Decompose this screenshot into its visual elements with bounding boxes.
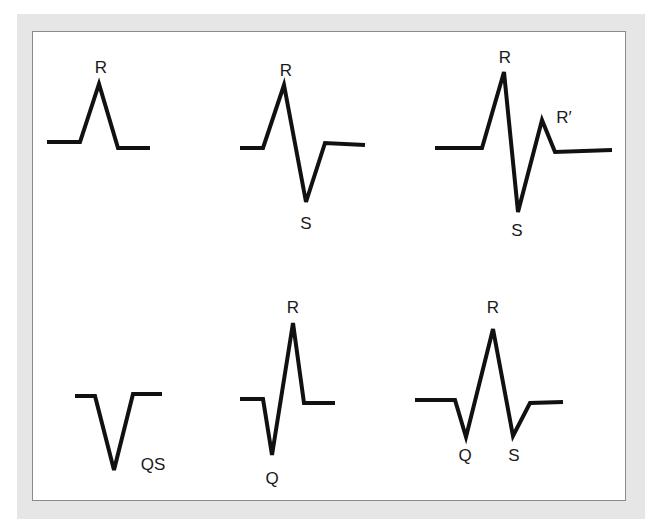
- wave-line: [47, 84, 150, 148]
- wave-line: [240, 85, 365, 202]
- wave-label-r: R: [499, 48, 511, 67]
- qrs-diagram: R R S R R′ S QS R Q R Q S: [0, 0, 655, 532]
- wave-label-r: R: [280, 61, 292, 80]
- wave-line: [240, 323, 335, 455]
- wave-label-s: S: [300, 214, 311, 233]
- wave-label-r: R: [287, 298, 299, 317]
- waveform-qs: QS: [75, 394, 165, 474]
- wave-label-s: S: [511, 221, 522, 240]
- wave-label-r: R: [487, 298, 499, 317]
- wave-label-r-prime: R′: [556, 108, 571, 127]
- wave-label-r: R: [95, 58, 107, 77]
- waveform-qr: R Q: [240, 298, 335, 488]
- wave-label-s: S: [508, 446, 519, 465]
- waveform-rsr-prime: R R′ S: [435, 48, 612, 240]
- wave-label-qs: QS: [141, 455, 166, 474]
- wave-line: [415, 329, 563, 437]
- wave-line: [435, 72, 612, 212]
- waveform-rs: R S: [240, 61, 365, 233]
- wave-label-q: Q: [458, 446, 471, 465]
- waveform-qrs: R Q S: [415, 298, 563, 465]
- waveform-r: R: [47, 58, 150, 148]
- wave-label-q: Q: [265, 469, 278, 488]
